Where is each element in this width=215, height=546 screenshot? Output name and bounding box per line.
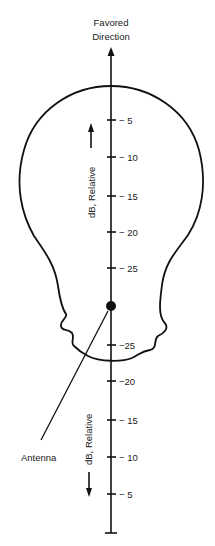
tick-label-upper-10: − 10: [119, 152, 138, 163]
tick-label-lower-15: − 15: [119, 415, 138, 426]
antenna-label: Antenna: [21, 452, 57, 463]
antenna-point: [106, 301, 116, 311]
tick-label-upper-20: − 20: [119, 227, 138, 238]
lower-arrow-down-icon: [86, 488, 92, 497]
tick-label-lower-5: − 5: [119, 489, 132, 500]
title-direction: Direction: [92, 31, 130, 42]
tick-label-upper-25: − 25: [119, 263, 138, 274]
db-relative-label-upper: dB, Relative: [86, 167, 97, 218]
axis-arrow-up-icon: [108, 47, 115, 56]
tick-label-lower-20: −20: [119, 376, 135, 387]
tick-label-upper-5: − 5: [119, 115, 132, 126]
upper-arrow-up-icon: [88, 123, 94, 132]
tick-label-upper-15: − 15: [119, 191, 138, 202]
tick-label-lower-10: − 10: [119, 452, 138, 463]
db-relative-label-lower: dB, Relative: [83, 414, 94, 465]
antenna-radiation-pattern-diagram: Favored Direction − 5 − 10 − 15 − 20 − 2…: [0, 0, 215, 546]
antenna-leader-line: [41, 311, 108, 440]
title-favored: Favored: [94, 17, 129, 28]
tick-label-lower-25: −25: [119, 340, 135, 351]
